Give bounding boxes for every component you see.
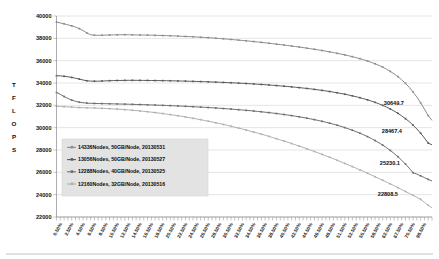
series-marker: [132, 34, 134, 36]
series-marker: [169, 80, 171, 82]
series-marker: [86, 107, 88, 109]
series-marker: [298, 145, 300, 147]
y-axis-title-char: O: [12, 120, 17, 127]
series-marker: [215, 107, 217, 109]
legend-label-3: 12160Nodes, 32GB/Node, 20130516: [78, 181, 165, 187]
series-marker: [314, 89, 316, 91]
series-marker: [162, 35, 164, 37]
series-marker: [427, 142, 429, 144]
series-marker: [397, 156, 399, 158]
y-tick-label: 34000: [36, 80, 52, 86]
series-marker: [71, 25, 73, 27]
series-marker: [185, 105, 187, 107]
legend-label-1: 13056Nodes, 50GB/Node, 20130527: [78, 156, 165, 162]
series-marker: [420, 102, 422, 104]
series-marker: [359, 132, 361, 134]
series-marker: [367, 60, 369, 62]
series-marker: [230, 125, 232, 127]
series-marker: [427, 204, 429, 206]
series-marker: [253, 131, 255, 133]
series-marker: [321, 120, 323, 122]
series-marker: [245, 83, 247, 85]
series-marker: [192, 36, 194, 38]
series-marker: [420, 199, 422, 201]
series-marker: [124, 109, 126, 111]
series-marker: [382, 66, 384, 68]
series-marker: [200, 36, 202, 38]
series-marker: [238, 109, 240, 111]
series-marker: [162, 104, 164, 106]
y-tick-label: 32000: [36, 102, 52, 108]
series-end-label-0: 30649.7: [384, 100, 404, 106]
series-marker: [245, 40, 247, 42]
series-marker: [329, 91, 331, 93]
series-marker: [352, 129, 354, 131]
series-marker: [78, 78, 80, 80]
series-marker: [298, 116, 300, 118]
series-marker: [314, 151, 316, 153]
series-marker: [283, 114, 285, 116]
series-marker: [169, 35, 171, 37]
legend-marker-2: [71, 170, 74, 173]
series-marker: [223, 108, 225, 110]
series-marker: [177, 80, 179, 82]
series-marker: [276, 113, 278, 115]
series-marker: [352, 95, 354, 97]
y-tick-label: 26000: [36, 169, 52, 175]
series-marker: [382, 144, 384, 146]
series-marker: [185, 80, 187, 82]
series-marker: [260, 133, 262, 135]
series-marker: [321, 50, 323, 52]
series-marker: [147, 80, 149, 82]
series-marker: [154, 80, 156, 82]
series-marker: [116, 108, 118, 110]
series-marker: [291, 86, 293, 88]
y-axis-title-char: T: [12, 81, 16, 88]
y-axis-title-char: F: [12, 94, 16, 101]
series-marker: [207, 37, 209, 39]
series-marker: [71, 106, 73, 108]
series-marker: [329, 122, 331, 124]
series-marker: [298, 87, 300, 89]
series-marker: [268, 42, 270, 44]
series-marker: [276, 85, 278, 87]
series-marker: [192, 106, 194, 108]
series-marker: [139, 34, 141, 36]
series-marker: [86, 32, 88, 34]
series-marker: [336, 159, 338, 161]
series-marker: [132, 79, 134, 81]
series-marker: [71, 77, 73, 79]
series-marker: [260, 42, 262, 44]
series-marker: [116, 80, 118, 82]
series-end-label-1: 28467.4: [382, 128, 403, 134]
series-marker: [276, 138, 278, 140]
y-tick-label: 40000: [36, 13, 52, 19]
series-marker: [306, 148, 308, 150]
series-marker: [306, 88, 308, 90]
series-marker: [94, 34, 96, 36]
series-marker: [260, 84, 262, 86]
series-marker: [192, 117, 194, 119]
series-marker: [306, 117, 308, 119]
series-marker: [192, 81, 194, 83]
series-marker: [374, 63, 376, 65]
series-marker: [162, 113, 164, 115]
series-marker: [215, 81, 217, 83]
legend-marker-3: [71, 183, 74, 186]
series-marker: [253, 110, 255, 112]
series-marker: [245, 109, 247, 111]
series-marker: [177, 105, 179, 107]
y-tick-label: 36000: [36, 58, 52, 64]
series-marker: [344, 163, 346, 165]
series-marker: [154, 112, 156, 114]
series-marker: [101, 34, 103, 36]
series-end-label-2: 25230.1: [380, 160, 400, 166]
legend-marker-1: [71, 158, 74, 161]
series-marker: [124, 103, 126, 105]
series-marker: [336, 124, 338, 126]
series-marker: [116, 34, 118, 36]
series-marker: [352, 56, 354, 58]
series-marker: [397, 76, 399, 78]
series-marker: [124, 80, 126, 82]
series-marker: [230, 39, 232, 41]
